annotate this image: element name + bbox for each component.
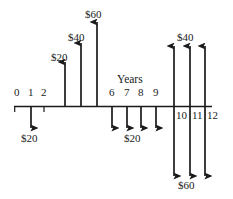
period-label-7: 7 [124,87,130,98]
outflow-amount-year-1: $20 [21,133,38,144]
cash-flow-graphics [0,0,233,199]
period-label-8: 8 [138,87,144,98]
period-label-6: 6 [109,87,115,98]
inflow-amount-year-3: $20 [51,52,68,63]
outflow-amount-years-6-9: $20 [124,133,141,144]
period-label-12: 12 [207,110,218,121]
inflow-amount-year-5: $60 [85,9,102,20]
inflow-amount-year-4: $40 [68,32,85,43]
period-label-2: 2 [41,87,47,98]
cash-flow-diagram: 0 1 2 6 7 8 9 10 11 12 Years $20 $40 $60… [0,0,233,199]
period-label-11: 11 [192,110,203,121]
outflow-amount-years-10-12: $60 [178,180,195,191]
period-label-9: 9 [153,87,159,98]
inflow-amount-years-10-12: $40 [177,32,194,43]
period-label-1: 1 [28,87,34,98]
period-label-0: 0 [14,87,20,98]
axis-title-years: Years [117,74,143,86]
period-label-10: 10 [176,110,187,121]
